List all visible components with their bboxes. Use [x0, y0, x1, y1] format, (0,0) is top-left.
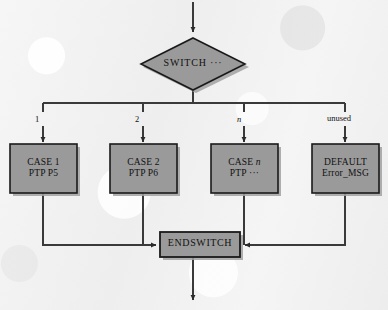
endswitch-box: [160, 232, 240, 257]
flowchart-graphics: [0, 0, 388, 310]
case2-box: [110, 144, 177, 193]
return-case1: [43, 193, 156, 245]
return-default: [245, 193, 345, 245]
switch-diamond: [141, 38, 245, 90]
casen-box: [211, 144, 278, 193]
default-box: [312, 144, 379, 193]
node-shapes: [10, 38, 379, 257]
case1-box: [10, 144, 77, 193]
flowchart-canvas: SWITCH ··· CASE 1 PTP P5 CASE 2 PTP P6 C…: [0, 0, 388, 310]
